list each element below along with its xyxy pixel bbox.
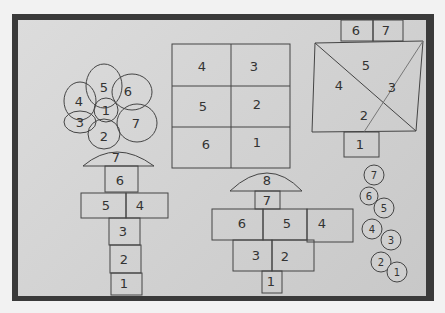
cell-number: 5 (100, 80, 108, 95)
drawings: 5 6 7 2 3 4 1 7 6 5 4 3 2 1 4 3 5 2 6 1 (0, 0, 445, 313)
cell-number: 3 (76, 115, 84, 130)
cell-number: 7 (263, 193, 271, 208)
cell-number: 5 (362, 58, 370, 73)
cell-number: 7 (382, 23, 390, 38)
triangle-hopscotch: 6 7 5 4 3 2 1 (312, 20, 423, 157)
circle-number: 4 (369, 224, 375, 235)
cell-number: 7 (112, 150, 120, 165)
cell-number: 2 (253, 97, 261, 112)
cell-number: 2 (360, 108, 368, 123)
cell-number: 4 (75, 94, 83, 109)
cell-number: 8 (263, 173, 271, 188)
grid-hopscotch: 4 3 5 2 6 1 (172, 44, 290, 168)
circle-number: 3 (388, 235, 394, 246)
cell-number: 6 (116, 173, 124, 188)
circle-number: 5 (381, 203, 387, 214)
mushroom-hopscotch: 8 7 6 5 4 3 2 1 (212, 173, 353, 294)
cell-number: 5 (283, 216, 291, 231)
cell-number: 3 (119, 224, 127, 239)
cell-number: 5 (199, 99, 207, 114)
cell-number: 6 (202, 137, 210, 152)
cell-number: 2 (281, 249, 289, 264)
cell-number: 1 (356, 137, 364, 152)
cell-number: 3 (388, 80, 396, 95)
cell-number: 6 (352, 23, 360, 38)
cell-number: 4 (318, 216, 326, 231)
cell-number: 3 (250, 59, 258, 74)
cell-number: 1 (102, 103, 110, 118)
circle-number: 7 (371, 170, 377, 181)
cell-number: 3 (252, 248, 260, 263)
cell-number: 4 (335, 78, 343, 93)
cell-number: 1 (253, 135, 261, 150)
cell-number: 6 (238, 216, 246, 231)
circle-number: 6 (366, 191, 372, 202)
cell-number: 4 (198, 59, 206, 74)
cell-number: 4 (136, 198, 144, 213)
cell-number: 7 (132, 116, 140, 131)
cell-number: 2 (100, 129, 108, 144)
circle-number: 1 (394, 267, 400, 278)
circle-chain-hopscotch: 7 6 5 4 3 2 1 (360, 165, 407, 282)
cell-number: 6 (124, 84, 132, 99)
cell-number: 1 (120, 276, 128, 291)
cell-number: 5 (102, 198, 110, 213)
cell-number: 1 (267, 274, 275, 289)
flower-hopscotch: 5 6 7 2 3 4 1 7 6 5 4 3 2 1 (64, 64, 168, 295)
cell-number: 2 (120, 252, 128, 267)
circle-number: 2 (378, 257, 384, 268)
